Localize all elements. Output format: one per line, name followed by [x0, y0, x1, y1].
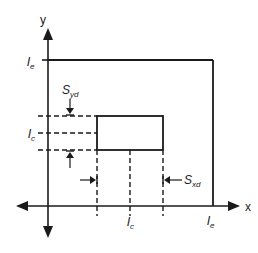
sxd-left-arrow-icon: [164, 176, 170, 184]
sxd-right-arrow-icon: [90, 176, 96, 184]
x-axis-left-arrow-icon: [16, 201, 28, 211]
column-rectangle: [97, 116, 163, 150]
syd-label: Syd: [62, 83, 79, 99]
x-axis: [16, 201, 240, 211]
x-axis-label: x: [245, 200, 251, 214]
y-axis-label: y: [40, 13, 46, 27]
horizontal-dashed-guides: [38, 116, 97, 150]
lc-y-label: lc: [28, 126, 35, 143]
y-axis-down-arrow-icon: [43, 226, 53, 238]
sxd-offset-arrows: [80, 176, 182, 184]
sxd-label: Sxd: [184, 173, 201, 189]
syd-up-arrow-icon: [66, 152, 74, 158]
x-axis-right-arrow-icon: [228, 201, 240, 211]
y-axis-up-arrow-icon: [43, 28, 53, 40]
le-y-label: le: [27, 54, 35, 71]
lc-x-label: lc: [127, 214, 134, 231]
syd-down-arrow-icon: [66, 108, 74, 114]
diagram-canvas: y x le le lc lc Syd Sxd: [0, 0, 258, 253]
le-x-label: le: [207, 213, 215, 230]
